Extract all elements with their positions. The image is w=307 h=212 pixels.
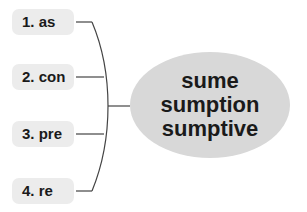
prefix-box-2: 2. con xyxy=(12,64,74,90)
prefix-box-4: 4. re xyxy=(12,178,74,204)
root-line-1: sume xyxy=(181,69,238,93)
prefix-label: 1. as xyxy=(22,13,55,30)
root-line-2: sumption xyxy=(161,93,260,117)
prefix-label: 4. re xyxy=(22,182,53,199)
root-ellipse: sume sumption sumptive xyxy=(130,52,290,158)
prefix-box-3: 3. pre xyxy=(12,121,74,147)
prefix-box-1: 1. as xyxy=(12,9,74,35)
root-line-3: sumptive xyxy=(162,117,259,141)
prefix-label: 3. pre xyxy=(22,125,62,142)
prefix-label: 2. con xyxy=(22,68,65,85)
